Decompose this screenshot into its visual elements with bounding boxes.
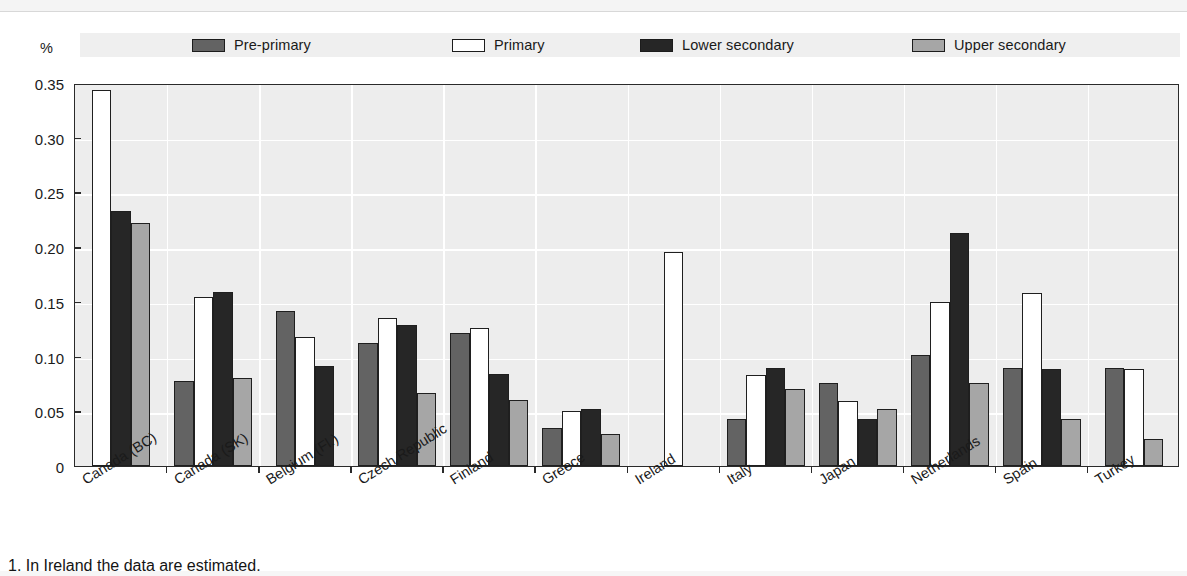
legend-swatch-icon <box>452 39 485 52</box>
y-axis-tick-label: 0.15 <box>8 294 64 311</box>
y-axis-tick-label: 0.20 <box>8 240 64 257</box>
x-axis-tick-mark <box>627 467 628 473</box>
x-axis-tick-mark <box>995 467 996 473</box>
y-axis-tick-label: 0.30 <box>8 130 64 147</box>
legend-swatch-icon <box>640 39 673 52</box>
legend-item-pre-primary: Pre-primary <box>192 33 311 57</box>
bar <box>1003 368 1023 466</box>
bar <box>819 383 839 466</box>
bars-layer <box>75 85 1178 466</box>
y-axis-unit-label: % <box>40 40 53 56</box>
bar <box>950 233 970 466</box>
legend-item-primary: Primary <box>452 33 545 57</box>
bar <box>877 409 897 466</box>
bar <box>194 297 214 466</box>
x-axis-tick-mark <box>350 467 351 473</box>
legend-label: Pre-primary <box>234 37 311 53</box>
bar <box>911 355 931 466</box>
x-axis-tick-mark <box>166 467 167 473</box>
x-axis-tick-mark <box>811 467 812 473</box>
y-axis-tick-mark <box>74 247 81 249</box>
bar <box>131 223 151 466</box>
bar <box>509 400 529 466</box>
y-axis-tick-mark <box>74 302 81 304</box>
legend-label: Primary <box>494 37 545 53</box>
bar <box>489 374 509 466</box>
bar <box>111 211 131 466</box>
bar <box>470 328 490 466</box>
bar <box>233 378 253 466</box>
bar <box>664 252 684 466</box>
bar <box>450 333 470 467</box>
y-axis-tick-mark <box>74 138 81 140</box>
y-axis-tick-label: 0.05 <box>8 404 64 421</box>
bar <box>785 389 805 466</box>
bar <box>1042 369 1062 466</box>
bar <box>92 90 112 466</box>
page-top-rule <box>0 11 1187 12</box>
bar <box>1105 368 1125 466</box>
y-axis-tick-mark <box>74 411 81 413</box>
legend-item-upper-secondary: Upper secondary <box>912 33 1066 57</box>
chart-plot-area <box>74 84 1179 467</box>
x-axis-tick-mark <box>534 467 535 473</box>
bar <box>858 419 878 466</box>
bar <box>969 383 989 466</box>
bar <box>276 311 296 466</box>
bar <box>1061 419 1081 466</box>
bar <box>1144 439 1164 466</box>
bar <box>601 434 621 466</box>
bar <box>358 343 378 466</box>
legend-label: Upper secondary <box>954 37 1066 53</box>
bar <box>746 375 766 466</box>
bar <box>766 368 786 466</box>
y-axis-tick-label: 0.10 <box>8 349 64 366</box>
bar <box>174 381 194 466</box>
x-axis-tick-mark <box>903 467 904 473</box>
legend-swatch-icon <box>192 39 225 52</box>
legend-item-lower-secondary: Lower secondary <box>640 33 794 57</box>
x-axis-tick-mark <box>442 467 443 473</box>
y-axis-tick-label: 0.35 <box>8 76 64 93</box>
bar <box>930 302 950 466</box>
bar <box>378 318 398 466</box>
legend-label: Lower secondary <box>682 37 794 53</box>
y-axis-tick-label: 0 <box>8 459 64 476</box>
bar <box>727 419 747 466</box>
x-axis-tick-mark <box>258 467 259 473</box>
chart-legend: Pre-primaryPrimaryLower secondaryUpper s… <box>80 33 1180 57</box>
legend-swatch-icon <box>912 39 945 52</box>
y-axis-tick-mark <box>74 192 81 194</box>
bar <box>1022 293 1042 466</box>
x-axis-tick-mark <box>719 467 720 473</box>
page-bottom-band <box>0 571 1187 576</box>
y-axis-tick-mark <box>74 357 81 359</box>
y-axis-tick-label: 0.25 <box>8 185 64 202</box>
x-axis-tick-mark <box>1087 467 1088 473</box>
